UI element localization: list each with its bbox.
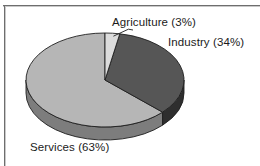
pie-chart-figure: Agriculture (3%) Industry (34%) Services… bbox=[0, 0, 260, 166]
pie-label-services: Services (63%) bbox=[30, 141, 109, 153]
pie-3d-body bbox=[26, 33, 184, 140]
pie-label-industry: Industry (34%) bbox=[168, 36, 244, 48]
pie-label-agriculture: Agriculture (3%) bbox=[112, 16, 196, 28]
